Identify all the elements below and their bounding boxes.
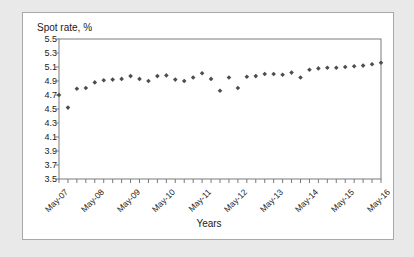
x-axis-title: Years [23, 218, 395, 229]
x-axis-tick-labels: May-07May-08May-09May-10May-11May-12May-… [23, 13, 395, 241]
spot-rate-chart: Spot rate, % 5.55.35.14.94.74.54.34.13.9… [23, 13, 395, 241]
chart-card: Spot rate, % 5.55.35.14.94.74.54.34.13.9… [22, 12, 394, 240]
